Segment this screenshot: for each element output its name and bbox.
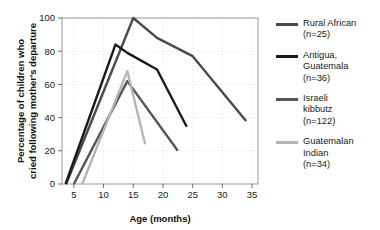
x-tick-label: 15 (128, 189, 139, 200)
x-tick-labels: 5101520253035 (71, 189, 257, 200)
y-tick-label: 60 (44, 79, 55, 90)
x-tick-label: 5 (71, 189, 76, 200)
y-tick-label: 20 (44, 145, 55, 156)
y-axis-title-line2: cried following mother's departure (27, 23, 38, 179)
legend-item[interactable]: Rural African (n=25) (276, 18, 380, 41)
x-tick-label: 20 (158, 189, 169, 200)
legend-label-antigua-guatemala: Antigua, Guatemala (n=36) (303, 50, 348, 84)
legend-item[interactable]: Guatemalan Indian (n=34) (276, 136, 380, 170)
chart-figure: 5101520253035 020406080100 Age (months) … (0, 0, 380, 230)
legend-label-guatemalan-indian: Guatemalan Indian (n=34) (303, 136, 354, 170)
chart-legend: Rural African (n=25) Antigua, Guatemala … (276, 18, 380, 214)
legend-swatch-antigua-guatemala (276, 55, 298, 58)
x-tick-label: 10 (98, 189, 109, 200)
y-tick-label: 80 (44, 46, 55, 57)
legend-label-rural-african: Rural African (n=25) (303, 18, 356, 41)
x-tick-label: 30 (217, 189, 228, 200)
legend-label-israeli-kibbutz: Israeli kibbutz (n=122) (303, 93, 335, 127)
y-tick-label: 100 (39, 12, 55, 23)
y-tick-labels: 020406080100 (39, 12, 55, 189)
x-tick-label: 25 (187, 189, 198, 200)
legend-swatch-rural-african (276, 23, 298, 26)
legend-item[interactable]: Israeli kibbutz (n=122) (276, 93, 380, 127)
y-tick-label: 0 (50, 178, 55, 189)
legend-item[interactable]: Antigua, Guatemala (n=36) (276, 50, 380, 84)
x-axis-title: Age (months) (129, 213, 190, 224)
y-axis-title-line1: Percentage of children who (15, 39, 26, 163)
legend-swatch-guatemalan-indian (276, 141, 298, 144)
x-tick-label: 35 (247, 189, 258, 200)
y-tick-label: 40 (44, 112, 55, 123)
legend-swatch-israeli-kibbutz (276, 98, 298, 101)
